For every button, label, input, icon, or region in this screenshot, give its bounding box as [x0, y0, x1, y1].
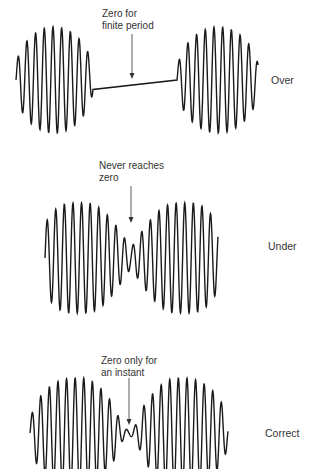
- annotation-over-line1: Zero for: [102, 8, 154, 20]
- annotation-under-line2: zero: [99, 172, 164, 184]
- annotation-over-line2: finite period: [102, 20, 154, 32]
- waveform-over: [0, 0, 314, 150]
- annotation-over: Zero for finite period: [102, 8, 154, 32]
- annotation-correct-line2: an instant: [101, 367, 157, 379]
- label-under: Under: [268, 240, 297, 252]
- arrowhead-correct: [127, 419, 132, 425]
- arrowhead-under: [129, 217, 134, 223]
- panel-under: Never reaches zero Under: [0, 150, 314, 320]
- annotation-under-line1: Never reaches: [99, 160, 164, 172]
- waveform-correct: [0, 320, 314, 469]
- panel-over: Zero for finite period Over: [0, 0, 314, 150]
- label-correct: Correct: [265, 427, 299, 439]
- panel-correct: Zero only for an instant Correct: [0, 320, 314, 469]
- annotation-under: Never reaches zero: [99, 160, 164, 184]
- annotation-correct: Zero only for an instant: [101, 355, 157, 379]
- annotation-correct-line1: Zero only for: [101, 355, 157, 367]
- label-over: Over: [271, 74, 294, 86]
- arrowhead-over: [130, 73, 135, 79]
